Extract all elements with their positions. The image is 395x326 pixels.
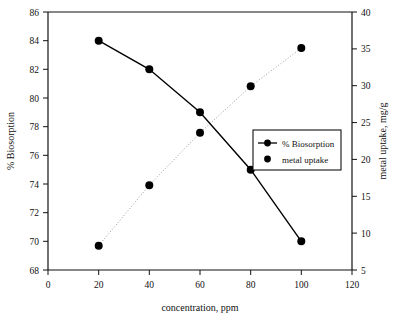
y-tick-label: 70 (30, 237, 40, 247)
x-axis-tick-labels: 0 20 40 60 80 100 120 (46, 280, 360, 290)
y-tick-label: 84 (30, 36, 40, 46)
x-tick-label: 20 (94, 280, 104, 290)
y-tick-label: 72 (30, 208, 40, 218)
legend-marker-icon (264, 156, 271, 163)
x-tick-label: 40 (145, 280, 155, 290)
x-axis-title: concentration, ppm (161, 302, 238, 313)
legend-marker-icon (264, 140, 271, 147)
y-tick-label: 74 (30, 180, 40, 190)
legend-label: metal uptake (282, 155, 328, 165)
y-axis-right-ticks (352, 12, 357, 270)
x-tick-label: 120 (345, 280, 360, 290)
y-axis-title-left: % Biosorption (5, 112, 16, 170)
chart-container: 68 70 72 74 76 78 80 82 84 86 5 10 15 2 (0, 0, 395, 326)
y2-tick-label: 15 (361, 192, 371, 202)
y2-tick-label: 5 (361, 266, 366, 276)
y2-tick-label: 35 (361, 44, 371, 54)
legend[interactable]: % Biosorption metal uptake (253, 130, 341, 170)
y-axis-left-tick-labels: 68 70 72 74 76 78 80 82 84 86 (30, 8, 40, 276)
x-axis-ticks (48, 270, 352, 275)
y2-tick-label: 40 (361, 8, 371, 18)
y-axis-left-ticks (43, 12, 48, 270)
y-axis-title-right: metal uptake, mg/g (377, 103, 388, 180)
y-tick-label: 80 (30, 94, 40, 104)
x-tick-label: 80 (246, 280, 256, 290)
y2-tick-label: 30 (361, 81, 371, 91)
y2-tick-label: 20 (361, 155, 371, 165)
y-tick-label: 76 (30, 151, 40, 161)
chart-canvas: 68 70 72 74 76 78 80 82 84 86 5 10 15 2 (0, 0, 395, 326)
y-tick-label: 68 (30, 266, 40, 276)
legend-label: % Biosorption (282, 139, 335, 149)
x-tick-label: 0 (46, 280, 51, 290)
x-tick-label: 100 (294, 280, 309, 290)
y-tick-label: 86 (30, 8, 40, 18)
y-axis-right-tick-labels: 5 10 15 20 25 30 35 40 (361, 8, 371, 276)
y2-tick-label: 25 (361, 118, 371, 128)
y-tick-label: 78 (30, 122, 40, 132)
y2-tick-label: 10 (361, 229, 371, 239)
y-tick-label: 82 (30, 65, 40, 75)
x-tick-label: 60 (195, 280, 205, 290)
